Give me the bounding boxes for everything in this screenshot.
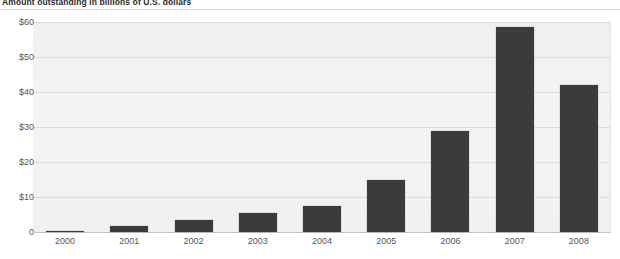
bar-slot bbox=[226, 22, 290, 232]
x-axis-line bbox=[33, 232, 611, 233]
bar bbox=[110, 226, 148, 232]
y-axis-tick-label: $50 bbox=[4, 52, 34, 62]
x-axis-tick-label: 2006 bbox=[440, 236, 460, 246]
bar-slot bbox=[161, 22, 225, 232]
bar-slot bbox=[547, 22, 611, 232]
bar bbox=[46, 231, 84, 233]
bar bbox=[431, 131, 469, 232]
x-axis-tick-label: 2007 bbox=[505, 236, 525, 246]
bar-slot bbox=[97, 22, 161, 232]
bar bbox=[239, 213, 277, 232]
y-axis-tick-label: 0 bbox=[4, 227, 34, 237]
x-axis-tick-label: 2000 bbox=[55, 236, 75, 246]
y-axis-tick-label: $60 bbox=[4, 17, 34, 27]
title-divider bbox=[0, 9, 620, 10]
bar bbox=[367, 180, 405, 232]
x-axis-tick-label: 2001 bbox=[119, 236, 139, 246]
chart-figure: Amount outstanding in billions of U.S. d… bbox=[0, 0, 620, 259]
bar bbox=[303, 206, 341, 232]
bar-slot bbox=[33, 22, 97, 232]
y-axis-tick-label: $20 bbox=[4, 157, 34, 167]
bar-slot bbox=[483, 22, 547, 232]
bar bbox=[560, 85, 598, 232]
x-axis-tick-label: 2003 bbox=[248, 236, 268, 246]
bar-slot bbox=[354, 22, 418, 232]
bar-slot bbox=[290, 22, 354, 232]
bar-slot bbox=[418, 22, 482, 232]
chart-title: Amount outstanding in billions of U.S. d… bbox=[2, 0, 191, 7]
bar bbox=[175, 220, 213, 232]
x-axis-tick-label: 2005 bbox=[376, 236, 396, 246]
x-axis-tick-label: 2008 bbox=[569, 236, 589, 246]
x-axis-tick-label: 2002 bbox=[184, 236, 204, 246]
x-axis-tick-label: 2004 bbox=[312, 236, 332, 246]
y-axis-tick-label: $30 bbox=[4, 122, 34, 132]
bar bbox=[496, 27, 534, 232]
bar-series bbox=[33, 22, 611, 232]
y-axis-tick-label: $40 bbox=[4, 87, 34, 97]
x-axis: 200020012002200320042005200620072008 bbox=[33, 236, 611, 256]
y-axis-tick-label: $10 bbox=[4, 192, 34, 202]
